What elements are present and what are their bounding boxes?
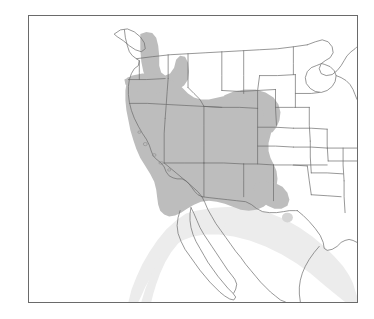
ar-tn-border	[311, 173, 343, 174]
tn-ms-border	[344, 181, 345, 213]
ne-ia-border	[293, 128, 327, 129]
range-southern-extension	[128, 207, 357, 302]
map-canvas	[29, 16, 357, 302]
range-texas-outlier	[282, 213, 293, 223]
great-lakes-north	[307, 40, 357, 76]
ia-mn-wi-border	[309, 107, 310, 141]
lake-erie-ontario	[336, 76, 357, 100]
nd-sd-border	[260, 75, 296, 76]
tx-ar-la-border	[307, 166, 311, 195]
distribution-map-figure	[0, 0, 374, 319]
il-ia-border	[327, 129, 328, 161]
in-il-border	[343, 148, 344, 181]
map-frame	[28, 15, 358, 303]
range-core	[124, 32, 289, 217]
mn-ia-line	[295, 92, 319, 93]
lake-michigan	[305, 64, 336, 93]
la-ms-border	[311, 195, 341, 197]
mo-ar-border	[310, 141, 311, 173]
